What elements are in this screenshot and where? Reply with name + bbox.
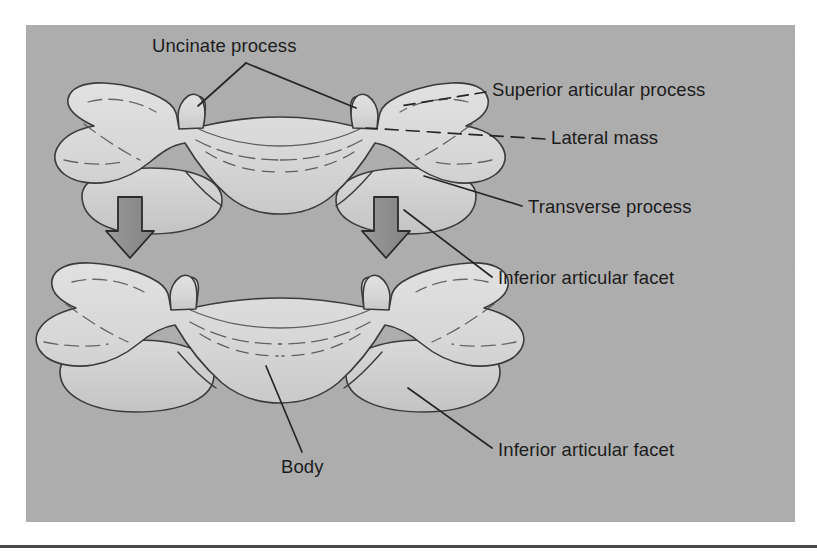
label-inferior-articular-facet-lower: Inferior articular facet [498,439,674,460]
label-transverse-process: Transverse process [528,196,692,217]
label-lateral-mass: Lateral mass [551,127,658,148]
anatomical-figure: Uncinate process Superior articular proc… [0,0,817,560]
label-superior-articular-process: Superior articular process [492,79,705,100]
vertebrae-diagram-canvas: Uncinate process Superior articular proc… [0,0,817,560]
label-body: Body [281,456,324,477]
page-horizontal-rule [0,545,817,548]
label-inferior-articular-facet-upper: Inferior articular facet [498,267,674,288]
label-uncinate-process: Uncinate process [152,35,297,56]
